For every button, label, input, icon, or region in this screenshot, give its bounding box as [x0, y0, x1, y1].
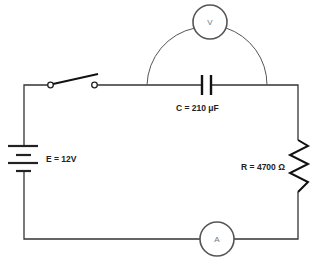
- capacitor-symbol: C = 210 μF: [176, 75, 219, 113]
- wire-resistor-ammeter: [234, 192, 298, 239]
- switch-lever: [53, 74, 98, 84]
- voltmeter-lead-left: [147, 28, 195, 85]
- battery-symbol: E = 12V: [8, 146, 77, 171]
- ammeter-label: A: [214, 235, 220, 244]
- wire-ammeter-battery: [24, 171, 200, 239]
- capacitor-label: C = 210 μF: [176, 103, 219, 113]
- resistor-label: R = 4700 Ω: [241, 162, 285, 172]
- ammeter-group: A: [200, 222, 234, 256]
- voltmeter-group: V: [147, 5, 267, 85]
- switch-symbol: [48, 74, 98, 88]
- voltmeter-lead-right: [226, 28, 267, 85]
- circuit-diagram: E = 12V C = 210 μF V R = 4700 Ω A: [0, 0, 314, 262]
- switch-contact-left: [48, 82, 54, 88]
- voltmeter-label: V: [207, 18, 213, 27]
- circuit-svg: E = 12V C = 210 μF V R = 4700 Ω A: [0, 0, 314, 262]
- wire-left-top: [24, 85, 48, 146]
- battery-label: E = 12V: [46, 154, 77, 164]
- resistor-symbol: R = 4700 Ω: [241, 140, 308, 192]
- switch-contact-right: [92, 82, 98, 88]
- resistor-zigzag: [290, 140, 308, 192]
- wire-capacitor-resistor: [211, 85, 298, 140]
